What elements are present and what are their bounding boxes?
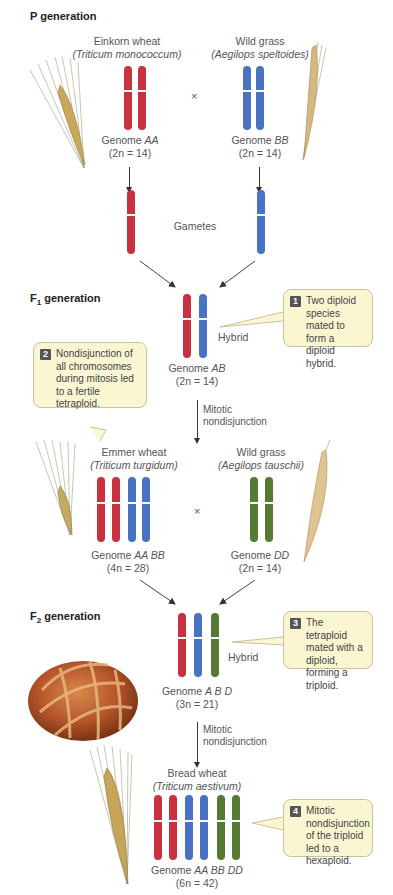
gametes-label: Gametes xyxy=(160,220,230,233)
genome-aabb-label: Genome AA BB (4n = 28) xyxy=(78,549,178,575)
genome-bb-label: Genome BB (2n = 14) xyxy=(210,134,310,160)
chromosome-b xyxy=(128,477,136,542)
emmer-wheat-illustration xyxy=(36,440,75,535)
chromosome-a xyxy=(124,66,132,130)
chromosome-d xyxy=(217,795,225,860)
einkorn-label: Einkorn wheat (Triticum monococcum) xyxy=(72,35,182,61)
callout-text: Nondisjunction of all chromosomes during… xyxy=(56,348,140,411)
arrow-down-icon xyxy=(197,722,198,764)
chromosome-a xyxy=(112,477,120,542)
bread-wheat-illustration xyxy=(90,745,132,884)
step-number-badge: 2 xyxy=(40,349,51,360)
callout-text: Mitotic nondisjunction of the triploid l… xyxy=(306,805,366,868)
chromosome-a xyxy=(169,795,177,860)
chromosome-b xyxy=(200,795,208,860)
gamete-chromosome-b xyxy=(257,190,265,254)
chromosome-d xyxy=(265,477,273,542)
f2-hybrid-label: Hybrid xyxy=(228,651,258,664)
chromosome-b xyxy=(243,66,251,130)
species-latin-name: (Triticum monococcum) xyxy=(73,48,182,60)
callout-text: Two diploid species mated to form a dipl… xyxy=(306,295,366,370)
tauschii-label: Wild grass(Aegilops tauschii) xyxy=(206,446,316,472)
p-generation-heading: P generation xyxy=(30,10,96,22)
hybrid-chromosome-a xyxy=(178,613,186,677)
genome-dd-label: Genome DD (2n = 14) xyxy=(210,549,310,575)
chromosome-b xyxy=(185,795,193,860)
chromosome-a xyxy=(97,477,105,542)
genome-prefix: Genome xyxy=(101,134,144,146)
genome-aabbdd-label: Genome AA BB DD (6n = 42) xyxy=(145,864,249,890)
chromosome-a xyxy=(154,795,162,860)
hybrid-chromosome-d xyxy=(211,613,219,677)
step-number-badge: 4 xyxy=(290,806,301,817)
chromosome-a xyxy=(138,66,146,130)
callout-1: 1 Two diploid species mated to form a di… xyxy=(283,289,373,347)
arrow-down-icon xyxy=(197,400,198,440)
chromosome-b xyxy=(256,66,264,130)
hybrid-chromosome-b xyxy=(194,613,202,677)
emmer-label: Emmer wheat(Triticum turgidum) xyxy=(78,446,190,472)
mitotic-nondisjunction-label-1: Mitoticnondisjunction xyxy=(203,404,267,428)
species-latin-name: (Aegilops speltoides) xyxy=(211,48,308,60)
callout-3: 3 The tetraploid mated with a diploid, f… xyxy=(283,611,373,669)
callout-2: 2 Nondisjunction of all chromosomes duri… xyxy=(33,342,147,408)
einkorn-wheat-illustration xyxy=(30,56,85,168)
chromosome-count: (2n = 14) xyxy=(210,147,310,160)
species-common-name: Einkorn wheat xyxy=(72,35,182,48)
genome-abd-label: Genome A B D (3n = 21) xyxy=(150,685,244,711)
speltoides-label: Wild grass (Aegilops speltoides) xyxy=(205,35,315,61)
chromosome-count: (2n = 14) xyxy=(80,147,180,160)
species-common-name: Wild grass xyxy=(205,35,315,48)
mitotic-nondisjunction-label-2: Mitoticnondisjunction xyxy=(203,724,267,748)
genome-prefix: Genome xyxy=(231,134,274,146)
cross-symbol: × xyxy=(191,90,197,102)
f2-generation-heading: F2 generation xyxy=(30,610,100,625)
arrow-down-icon xyxy=(259,167,260,189)
chromosome-d xyxy=(232,795,240,860)
step-number-badge: 3 xyxy=(290,618,301,629)
hybrid-chromosome-a xyxy=(183,294,191,358)
f1-generation-heading: F1 generation xyxy=(30,292,100,307)
step-number-badge: 1 xyxy=(290,296,301,307)
genome-ab-label: Genome AB (2n = 14) xyxy=(150,362,244,388)
f1-hybrid-label: Hybrid xyxy=(218,331,248,344)
gamete-chromosome-a xyxy=(127,190,135,254)
chromosome-b xyxy=(142,477,150,542)
cross-symbol: × xyxy=(194,505,200,517)
bread-loaf-illustration xyxy=(28,661,138,741)
genome-letters: AA xyxy=(145,134,159,146)
bread-wheat-label: Bread wheat(Triticum aestivum) xyxy=(145,767,249,793)
hybrid-chromosome-b xyxy=(199,294,207,358)
arrow-down-icon xyxy=(129,167,130,189)
callout-text: The tetraploid mated with a diploid, for… xyxy=(306,617,366,692)
callout-4: 4 Mitotic nondisjunction of the triploid… xyxy=(283,799,373,857)
genome-letters: BB xyxy=(275,134,289,146)
chromosome-d xyxy=(250,477,258,542)
genome-aa-label: Genome AA (2n = 14) xyxy=(80,134,180,160)
